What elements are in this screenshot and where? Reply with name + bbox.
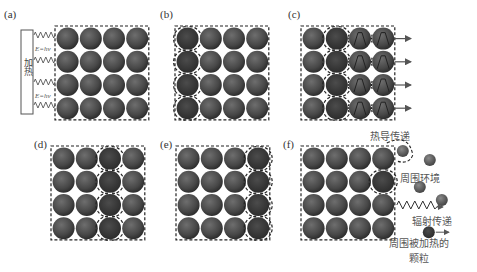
particle: [349, 148, 371, 170]
particle: [349, 28, 371, 50]
particle: [223, 74, 245, 96]
particle: [103, 74, 125, 96]
particle: [326, 97, 348, 119]
particle: [122, 217, 144, 239]
particle: [224, 171, 246, 193]
heat-front-arc: [348, 104, 349, 112]
particle: [201, 217, 223, 239]
particle: [178, 171, 200, 193]
particle: [200, 28, 222, 50]
environment-particle: [436, 194, 448, 206]
particle: [122, 194, 144, 216]
heat-front-arc: [348, 35, 349, 43]
panel-f: [301, 146, 397, 240]
particle: [200, 51, 222, 73]
particle: [223, 97, 245, 119]
particle: [76, 194, 98, 216]
particle: [126, 74, 148, 96]
particle: [223, 28, 245, 50]
spring-icon: [34, 32, 55, 38]
panel-a: [55, 26, 149, 120]
heater-label: 加热: [22, 58, 35, 76]
particle: [247, 171, 269, 193]
heat-front-arc: [371, 35, 372, 43]
particle: [200, 74, 222, 96]
particle: [80, 28, 102, 50]
particle: [201, 194, 223, 216]
panel-label-b: (b): [160, 8, 173, 20]
particle: [126, 97, 148, 119]
particle: [99, 194, 121, 216]
radiation-label: 辐射传递: [412, 213, 452, 228]
particle: [372, 171, 394, 193]
particle: [303, 97, 325, 119]
spring-icon: [34, 79, 55, 85]
particle: [99, 217, 121, 239]
particle: [349, 74, 371, 96]
particle: [247, 148, 269, 170]
particle: [57, 28, 79, 50]
heated-particles-label-line1: 周围被加热的: [389, 235, 449, 250]
particle: [103, 28, 125, 50]
particle: [224, 217, 246, 239]
particle: [76, 217, 98, 239]
particle: [53, 194, 75, 216]
particle: [178, 194, 200, 216]
heat-front-arc: [348, 58, 349, 66]
particle: [326, 194, 348, 216]
panel-b: [174, 26, 269, 120]
heat-front-arc: [348, 81, 349, 89]
particle: [178, 148, 200, 170]
particle: [247, 217, 269, 239]
particle: [200, 97, 222, 119]
particle: [326, 74, 348, 96]
particle: [177, 97, 199, 119]
escaping-particle: [397, 145, 409, 157]
particle: [303, 28, 325, 50]
panel-label-c: (c): [288, 8, 300, 20]
panel-label-f: (f): [283, 138, 294, 150]
particle: [177, 74, 199, 96]
particle: [349, 217, 371, 239]
particle: [303, 51, 325, 73]
panel-d: [51, 146, 145, 240]
particle: [80, 74, 102, 96]
particle: [349, 97, 371, 119]
particle: [122, 171, 144, 193]
particle: [326, 171, 348, 193]
particle: [246, 97, 268, 119]
particle: [326, 217, 348, 239]
particle: [224, 194, 246, 216]
spring-icon: [34, 57, 55, 63]
heat-conduction-label: 热导传递: [370, 128, 410, 143]
particle: [349, 194, 371, 216]
panel-e: [176, 146, 272, 240]
particle: [76, 171, 98, 193]
panel-label-d: (d): [34, 138, 47, 150]
particle: [326, 148, 348, 170]
heat-front-arc: [371, 104, 372, 112]
particle: [53, 148, 75, 170]
heat-front-arc: [371, 58, 372, 66]
spring-icon: [34, 102, 55, 108]
panel-c: [301, 26, 411, 120]
particle: [178, 217, 200, 239]
particle: [224, 148, 246, 170]
particle: [57, 97, 79, 119]
particle: [103, 51, 125, 73]
particle: [223, 51, 245, 73]
particle: [80, 97, 102, 119]
particle: [372, 97, 394, 119]
heated-particles-label-line2: 颗粒: [409, 250, 429, 265]
particle: [126, 51, 148, 73]
particle: [349, 171, 371, 193]
particle: [57, 74, 79, 96]
particle: [99, 171, 121, 193]
particle: [246, 28, 268, 50]
panel-label-e: (e): [160, 138, 172, 150]
particle: [99, 148, 121, 170]
particle: [372, 51, 394, 73]
particle: [372, 74, 394, 96]
particle: [103, 97, 125, 119]
environment-label: 周围环境: [400, 170, 440, 185]
